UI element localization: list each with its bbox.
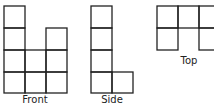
side-cell — [91, 72, 112, 93]
front-cell — [4, 72, 25, 93]
front-view: Front — [4, 6, 67, 104]
side-cell — [91, 28, 112, 50]
top-cell — [199, 6, 214, 28]
top-cell — [178, 6, 199, 28]
top-label: Top — [180, 55, 198, 66]
top-view: Top — [157, 6, 214, 66]
side-view: Side — [91, 6, 133, 104]
side-cell — [91, 50, 112, 72]
top-cell — [157, 28, 178, 50]
side-cell — [112, 72, 133, 93]
front-cell — [4, 28, 25, 50]
front-cell — [25, 72, 46, 93]
top-cell — [199, 28, 214, 50]
front-cell — [46, 28, 67, 50]
front-cell — [25, 50, 46, 72]
front-cell — [4, 6, 25, 28]
side-cell — [91, 6, 112, 28]
front-cell — [46, 50, 67, 72]
front-cell — [46, 72, 67, 93]
top-cell — [157, 6, 178, 28]
side-label: Side — [101, 94, 123, 104]
orthographic-views-diagram: Front Side Top — [0, 0, 214, 104]
front-label: Front — [22, 94, 47, 104]
front-cell — [4, 50, 25, 72]
